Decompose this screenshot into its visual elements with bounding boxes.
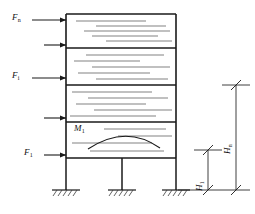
moment-label-m1: M1 xyxy=(74,124,85,133)
dimension-hn xyxy=(222,80,250,195)
ground-columns xyxy=(66,158,176,190)
height-label-h1: H1 xyxy=(195,182,204,192)
figure-canvas: Fn Fi F1 M1 Hn H1 xyxy=(0,0,255,214)
storey-beams xyxy=(66,48,176,158)
force-label-fn-sub: n xyxy=(18,17,21,23)
support-middle xyxy=(108,190,136,196)
force-label-f1: F1 xyxy=(24,148,33,157)
height-label-hn: Hn xyxy=(223,145,232,155)
height-label-h1-symbol: H xyxy=(194,185,204,192)
lateral-force-arrows xyxy=(32,20,66,155)
moment-label-m1-symbol: M xyxy=(74,123,82,133)
moment-label-m1-sub: 1 xyxy=(82,128,85,134)
frame-diagram-svg xyxy=(0,0,255,214)
support-right xyxy=(162,190,190,196)
force-label-f1-symbol: F xyxy=(24,147,30,157)
fixed-supports xyxy=(52,190,190,196)
support-left xyxy=(52,190,80,196)
height-label-h1-sub: 1 xyxy=(199,181,205,184)
force-label-fn-symbol: F xyxy=(12,12,18,22)
force-label-fi-symbol: F xyxy=(12,70,18,80)
dimension-lines xyxy=(178,80,250,195)
force-label-f1-sub: 1 xyxy=(30,152,33,158)
force-label-fn: Fn xyxy=(12,13,21,22)
height-label-hn-symbol: H xyxy=(222,148,232,155)
force-label-fi: Fi xyxy=(12,71,19,80)
height-label-hn-sub: n xyxy=(227,144,233,147)
storey-hatching xyxy=(70,21,172,151)
